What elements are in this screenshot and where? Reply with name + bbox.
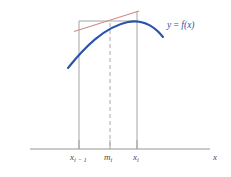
curve-label-arg: (x)	[184, 20, 195, 30]
tick-label-midpoint-main: m	[104, 152, 111, 162]
diagram-svg	[0, 0, 231, 177]
tick-label-x-upper-sub: i	[137, 156, 139, 163]
figure-canvas: xi − 1 mi xi x y = f(x)	[0, 0, 231, 177]
x-axis-label: x	[213, 153, 217, 162]
tick-label-x-lower-sub: i − 1	[74, 156, 87, 163]
tick-label-x-upper: xi	[133, 153, 139, 162]
curve-label: y = f(x)	[167, 21, 195, 31]
tick-label-x-lower: xi − 1	[70, 153, 87, 162]
tick-label-midpoint-sub: i	[111, 156, 113, 163]
tick-label-midpoint: mi	[104, 153, 112, 162]
curve-label-equals: =	[171, 20, 181, 30]
